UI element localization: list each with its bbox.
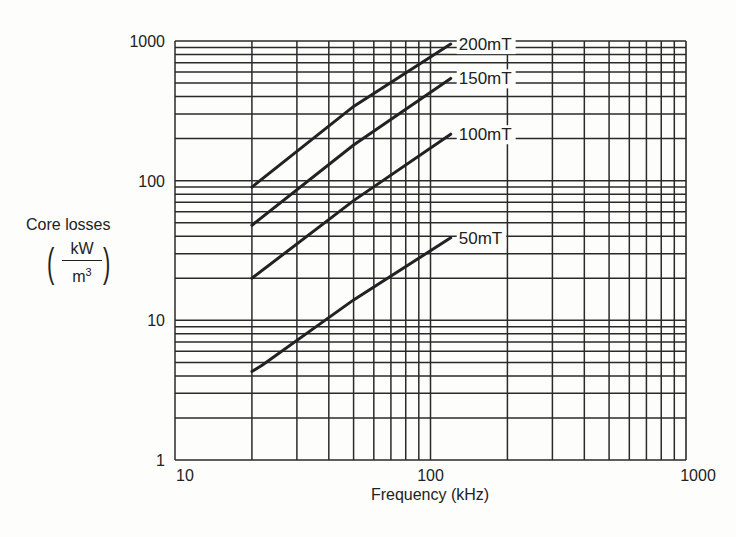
x-tick-label: 10	[176, 467, 194, 484]
unit-exponent: 3	[86, 266, 92, 278]
unit-numerator: kW	[62, 240, 102, 261]
y-axis-title: Core losses ( kW m3 )	[26, 216, 156, 290]
unit-denominator: m3	[62, 261, 102, 286]
axis-ticks: 1101001000101001000	[129, 33, 715, 484]
curve-label-200mT: 200mT	[459, 35, 512, 54]
x-tick-label: 100	[417, 467, 444, 484]
unit-fraction: kW m3	[62, 240, 102, 286]
y-axis-unit: ( kW m3 )	[48, 240, 128, 290]
y-tick-label: 1000	[129, 33, 165, 50]
unit-denominator-base: m	[72, 268, 85, 285]
x-axis-title: Frequency (kHz)	[371, 486, 489, 503]
curve-label-100mT: 100mT	[459, 125, 512, 144]
curve-label-150mT: 150mT	[459, 69, 512, 88]
left-paren: (	[47, 238, 54, 288]
y-axis-label: Core losses	[26, 216, 156, 234]
curves	[252, 44, 451, 371]
curve-200mT	[252, 44, 451, 187]
y-tick-label: 100	[138, 173, 165, 190]
y-tick-label: 1	[156, 452, 165, 469]
curve-label-50mT: 50mT	[459, 229, 502, 248]
x-tick-label: 1000	[680, 467, 716, 484]
y-tick-label: 10	[147, 312, 165, 329]
right-paren: )	[103, 238, 110, 288]
